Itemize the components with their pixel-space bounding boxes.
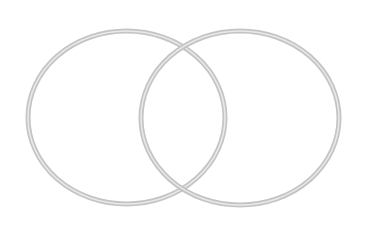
circle-set-a: [28, 31, 225, 204]
venn-diagram: [0, 0, 365, 237]
circle-set-b: [141, 31, 339, 205]
venn-diagram-svg: [0, 0, 365, 237]
